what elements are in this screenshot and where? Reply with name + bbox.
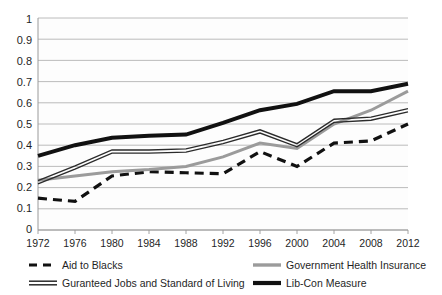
x-axis-tick-marks [38, 230, 408, 234]
chart-legend: Aid to Blacks Government Health Insuranc… [0, 256, 442, 295]
x-axis-tick-label: 1984 [129, 238, 169, 249]
plot-area [0, 0, 442, 295]
x-axis-tick-label: 1988 [166, 238, 206, 249]
legend-label: Lib-Con Measure [286, 277, 367, 289]
legend-label: Government Health Insurance [286, 259, 426, 271]
legend-item-government-health-insurance[interactable]: Government Health Insurance [252, 258, 426, 272]
gray-line-marker-icon [252, 259, 282, 271]
dashed-marker-icon [28, 259, 58, 271]
x-axis-tick-label: 2008 [351, 238, 391, 249]
x-axis-tick-label: 2000 [277, 238, 317, 249]
legend-label: Guranteed Jobs and Standard of Living [62, 277, 245, 289]
x-axis-tick-label: 1976 [55, 238, 95, 249]
double-line-marker-icon [28, 277, 58, 289]
legend-item-aid-to-blacks[interactable]: Aid to Blacks [28, 258, 123, 272]
legend-item-guranteed-jobs[interactable]: Guranteed Jobs and Standard of Living [28, 276, 245, 290]
x-axis-tick-label: 1980 [92, 238, 132, 249]
x-axis-tick-label: 2012 [388, 238, 428, 249]
legend-label: Aid to Blacks [62, 259, 123, 271]
x-axis-tick-label: 2004 [314, 238, 354, 249]
x-axis-tick-label: 1996 [240, 238, 280, 249]
legend-item-lib-con-measure[interactable]: Lib-Con Measure [252, 276, 367, 290]
thick-black-line-marker-icon [252, 277, 282, 289]
x-axis-tick-label: 1972 [18, 238, 58, 249]
x-axis-tick-label: 1992 [203, 238, 243, 249]
line-chart: 1 0.9 0.8 0.7 0.6 0.5 0.4 0.3 0.2 0.1 0 … [0, 0, 442, 295]
